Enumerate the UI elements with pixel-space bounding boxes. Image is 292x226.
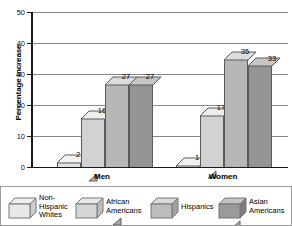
- legend-label: Asian Americans: [249, 198, 284, 215]
- bar-women-hispanics[interactable]: [224, 59, 248, 168]
- bar-front: [105, 84, 129, 168]
- legend-label: Non- Hispanic Whites: [39, 194, 68, 220]
- plot-area: 50 40 30 20 10 0 2: [31, 12, 288, 168]
- bar-women-asian-americans[interactable]: [248, 65, 272, 168]
- bar-front: [129, 84, 153, 168]
- cube-icon: [9, 197, 37, 219]
- legend: Non- Hispanic Whites African Americans: [0, 186, 292, 226]
- bar-value-label-women-hispanics: 35: [232, 48, 258, 56]
- group-label-men: Men: [62, 172, 142, 181]
- ytick-label-20: 20: [0, 102, 25, 110]
- bar-men-hispanics[interactable]: [105, 84, 129, 168]
- bar-front: [81, 118, 105, 168]
- y-axis-line: [31, 12, 33, 168]
- bar-value-label-women-asian-americans: 33: [259, 55, 285, 63]
- cube-icon: [219, 197, 247, 219]
- group-label-women: Women: [183, 172, 263, 181]
- legend-label: African Americans: [106, 198, 141, 215]
- gridline-50: [31, 12, 288, 13]
- cube-icon: [76, 197, 104, 219]
- x-axis-line: [31, 167, 288, 168]
- bar-men-african-americans[interactable]: [81, 118, 105, 168]
- bar-value-label-men-asian-americans: 27: [137, 73, 163, 81]
- bar-front: [248, 65, 272, 168]
- bar-front: [224, 59, 248, 168]
- bar-chart: Percentage Increase 50 40 30 20 10 0: [0, 0, 292, 226]
- ytick-label-10: 10: [0, 133, 25, 141]
- ytick-label-50: 50: [0, 9, 25, 17]
- ytick-label-0: 0: [0, 164, 25, 172]
- legend-label: Hispanics: [181, 203, 214, 212]
- bar-women-african-americans[interactable]: [200, 115, 224, 168]
- cube-icon: [151, 197, 179, 219]
- bar-men-asian-americans[interactable]: [129, 84, 153, 168]
- bar-front: [200, 115, 224, 168]
- gridline-40: [31, 43, 288, 44]
- ytick-label-40: 40: [0, 40, 25, 48]
- ytick-label-30: 30: [0, 71, 25, 79]
